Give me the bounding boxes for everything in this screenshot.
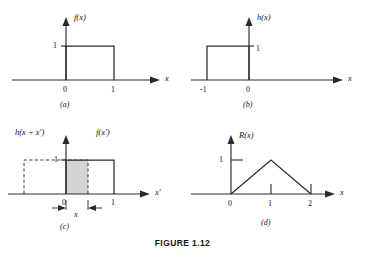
figure-1-12: f(x) x 1 0 1 (a) h(x) x 1 -1 0 (b) — [0, 0, 365, 260]
panel-c-tag: (c) — [60, 223, 69, 231]
panel-d-y-value-1: 1 — [219, 156, 223, 164]
panel-a-x-arrowhead — [150, 77, 160, 84]
panel-c-x-tick-1: 1 — [111, 199, 115, 207]
panel-d-plot — [183, 122, 365, 238]
panel-a-plot — [0, 4, 183, 120]
panel-c: h(x + x') f(x') x' 1 0 1 x (c) — [0, 122, 183, 238]
panel-a-y-arrowhead — [63, 17, 70, 26]
panel-a-x-tick-0: 0 — [63, 86, 67, 94]
panel-a-tag: (a) — [60, 101, 69, 109]
panel-b-x-arrowhead — [333, 77, 343, 84]
panel-c-x-arrowhead — [140, 191, 150, 198]
panel-d-function-label: R(x) — [239, 131, 254, 140]
panel-a-function-label: f(x) — [74, 13, 86, 22]
panel-c-y-arrowhead — [63, 135, 70, 144]
panel-c-overlap-shading — [66, 160, 88, 194]
panel-c-shift-label: x — [74, 210, 78, 219]
panel-b-x-tick-0: 0 — [246, 86, 250, 94]
panel-c-y-value-1: 1 — [54, 156, 58, 164]
panel-b-plot — [183, 4, 365, 120]
panel-a-pulse — [66, 46, 114, 80]
panel-a-y-value-1: 1 — [53, 42, 57, 50]
panel-b-tag: (b) — [243, 101, 252, 109]
panel-d-x-tick-2: 2 — [308, 200, 312, 208]
panel-d-x-tick-0: 0 — [228, 200, 232, 208]
panel-c-right-label: f(x') — [96, 128, 110, 137]
panel-d-y-arrowhead — [228, 135, 235, 144]
panel-b: h(x) x 1 -1 0 (b) — [183, 4, 365, 120]
panel-a-xaxis-label: x — [165, 74, 169, 83]
panel-b-xaxis-label: x — [348, 74, 352, 83]
panel-d-tag: (d) — [261, 219, 270, 227]
panel-b-y-arrowhead — [246, 17, 253, 26]
panel-c-plot — [0, 122, 183, 238]
panel-a: f(x) x 1 0 1 (a) — [0, 4, 183, 120]
panel-d-x-tick-1: 1 — [268, 200, 272, 208]
panel-d: R(x) x 1 0 1 2 (d) — [183, 122, 365, 238]
figure-caption: FIGURE 1.12 — [0, 238, 365, 248]
panel-b-pulse — [207, 46, 249, 80]
panel-c-left-label: h(x + x') — [15, 128, 44, 137]
panel-a-x-tick-1: 1 — [111, 86, 115, 94]
panel-c-x-tick-0: 0 — [62, 199, 66, 207]
panel-c-xaxis-label: x' — [155, 188, 161, 197]
panel-d-x-arrowhead — [325, 191, 335, 198]
panel-c-dim-right-arrowhead — [88, 205, 96, 211]
panel-d-xaxis-label: x — [340, 188, 344, 197]
panel-b-x-tick-minus1: -1 — [200, 86, 207, 94]
panel-b-function-label: h(x) — [257, 13, 271, 22]
panel-b-y-value-1: 1 — [256, 45, 260, 53]
